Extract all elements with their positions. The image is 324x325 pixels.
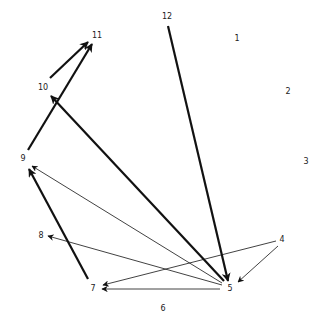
edge-12-to-5 xyxy=(168,26,228,281)
edge-5-to-9 xyxy=(32,166,222,283)
directed-graph: 123456789101112 xyxy=(0,0,324,325)
edge-7-to-9 xyxy=(29,169,88,279)
node-label-2: 2 xyxy=(285,87,290,96)
nodes-group: 123456789101112 xyxy=(20,12,308,313)
node-label-5: 5 xyxy=(227,284,232,293)
edge-5-to-8 xyxy=(48,236,222,285)
node-label-12: 12 xyxy=(162,12,172,21)
node-label-6: 6 xyxy=(160,304,165,313)
edge-5-to-10 xyxy=(51,96,224,281)
edge-9-to-11 xyxy=(28,44,92,150)
edge-4-to-7 xyxy=(103,241,276,285)
node-label-7: 7 xyxy=(90,284,95,293)
node-label-4: 4 xyxy=(279,235,284,244)
node-label-8: 8 xyxy=(38,231,43,240)
edge-4-to-5 xyxy=(238,246,278,282)
node-label-11: 11 xyxy=(92,31,102,40)
node-label-10: 10 xyxy=(38,83,48,92)
edges-group xyxy=(28,26,278,289)
node-label-3: 3 xyxy=(303,157,308,166)
node-label-1: 1 xyxy=(234,34,239,43)
node-label-9: 9 xyxy=(20,154,25,163)
